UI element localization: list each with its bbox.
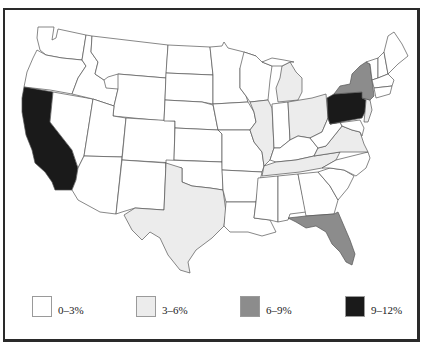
legend-label: 0–3% xyxy=(58,304,84,316)
legend-label: 3–6% xyxy=(162,304,188,316)
state-north-dakota xyxy=(166,45,213,75)
us-choropleth-map xyxy=(0,0,426,346)
state-florida xyxy=(288,212,355,265)
legend-swatch-3-6 xyxy=(136,296,156,317)
state-wisconsin xyxy=(240,52,272,102)
state-maine xyxy=(384,32,408,74)
state-pennsylvania xyxy=(327,92,366,124)
state-iowa xyxy=(213,102,256,130)
legend-label: 9–12% xyxy=(371,304,402,316)
state-mississippi xyxy=(254,176,278,222)
state-new-mexico xyxy=(116,160,166,214)
legend-swatch-6-9 xyxy=(240,296,260,317)
state-montana xyxy=(91,36,168,80)
state-connecticut xyxy=(374,86,392,98)
state-indiana xyxy=(272,102,290,148)
state-arkansas xyxy=(222,170,262,202)
legend-label: 6–9% xyxy=(266,304,292,316)
state-arizona xyxy=(72,156,122,214)
state-colorado xyxy=(122,118,175,163)
state-michigan xyxy=(276,62,302,102)
state-south-dakota xyxy=(165,73,213,104)
state-wyoming xyxy=(113,74,166,121)
state-kansas xyxy=(174,128,222,162)
legend-swatch-0-3 xyxy=(32,296,52,317)
legend-swatch-9-12 xyxy=(345,296,365,317)
